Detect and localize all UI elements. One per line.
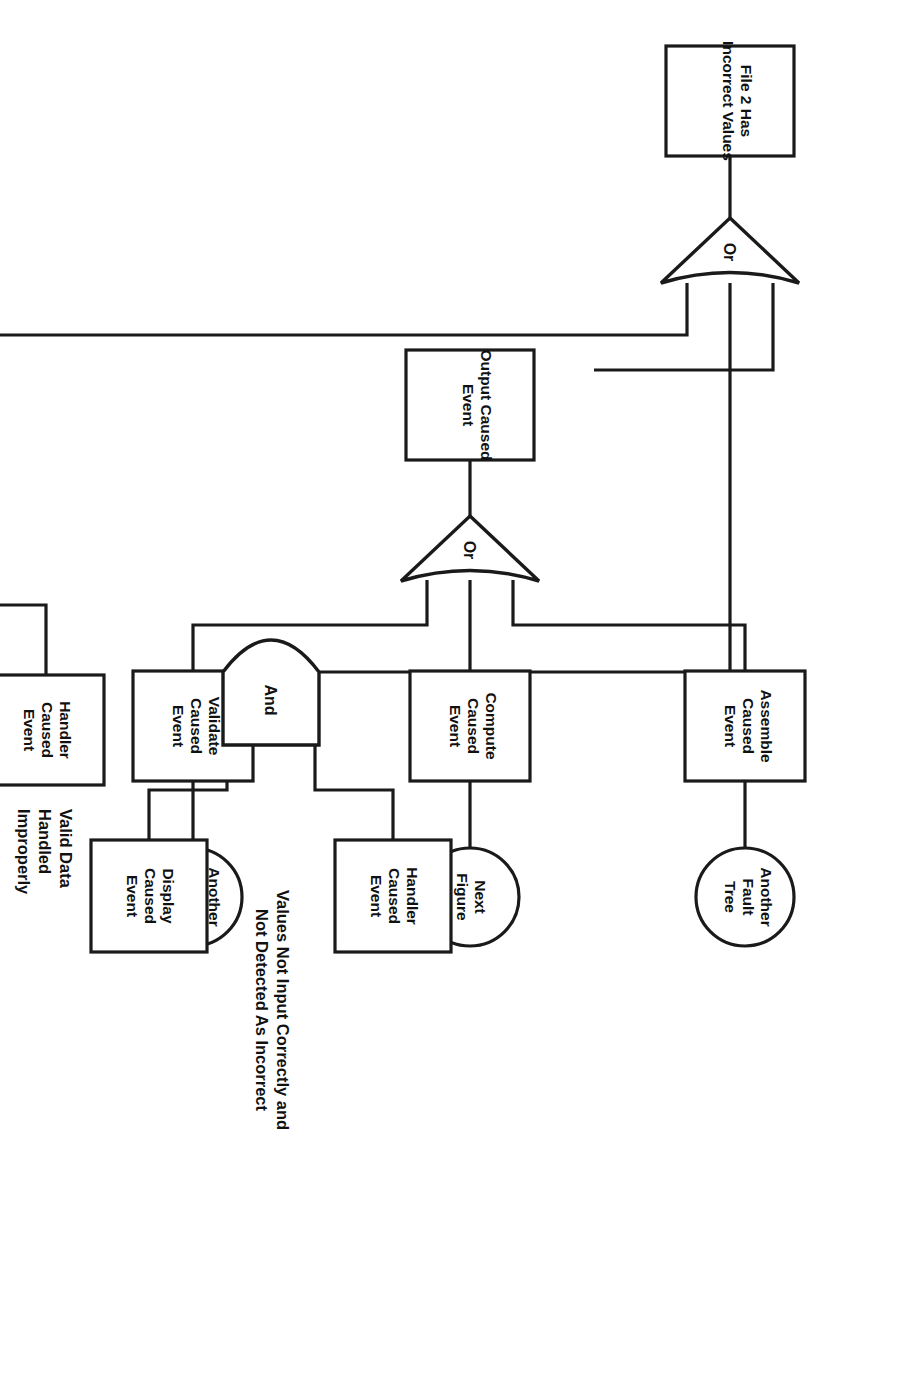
assemble-transfer-node[interactable]: Another Fault Tree [696,848,794,946]
validate-caused-line3: Event [170,705,187,747]
compute-caused-event-node[interactable]: Compute Caused Event [410,671,530,781]
handler-and-line2: Caused [386,868,403,924]
assemble-caused-line2: Caused [740,698,757,754]
handler-note-line3: Improperly [15,809,33,895]
annotation-handler-create: Valid Data Handled Improperly [15,809,75,895]
compute-transfer-line2: Figure [454,873,471,921]
gate-root-or-label: Or [721,243,738,262]
wire-output-or-to-assemble [513,580,745,671]
top-event-node[interactable]: File 2 Has Incorrect Values [666,41,794,161]
handler-note-line1: Valid Data [57,809,75,889]
wire-and-to-handler [315,745,393,840]
gate-output-or[interactable]: Or [401,516,539,581]
compute-caused-line3: Event [447,705,464,747]
output-caused-line1: Output Caused [478,349,495,460]
output-caused-event-node[interactable]: Output Caused Event [406,349,534,460]
handler-and-line1: Handler [404,867,421,925]
and-note-line1: Values Not Input Correctly and [274,890,292,1130]
compute-transfer-line1: Next [472,880,489,914]
and-note-line2: Not Detected As Incorrect [253,909,271,1112]
gate-detect-and-label: And [262,684,279,715]
handler-create-line1: Handler [57,701,74,759]
display-and-line3: Event [124,875,141,917]
rotated-canvas: File 2 Has Incorrect Values Or Output Ca… [0,0,899,1374]
display-and-line1: Display [160,868,177,924]
handler-create-line2: Caused [39,702,56,758]
wire-root-to-create-branch [0,283,687,335]
handler-caused-create-node[interactable]: Handler Caused Event [0,675,104,785]
wire-output-or-to-validate [193,580,427,671]
annotation-and-branch: Values Not Input Correctly and Not Detec… [253,890,292,1130]
assemble-transfer-line2: Fault [740,878,757,915]
handler-and-line3: Event [368,875,385,917]
handler-create-line3: Event [21,709,38,751]
display-caused-and-node[interactable]: Display Caused Event [91,840,207,952]
handler-note-line2: Handled [36,809,54,874]
top-event-line1: File 2 Has [738,65,755,137]
assemble-caused-line1: Assemble [758,689,775,763]
output-caused-line2: Event [460,384,477,426]
top-event-line2: Incorrect Values [720,41,737,161]
compute-caused-line1: Compute [483,692,500,760]
gate-root-or[interactable]: Or [661,218,799,283]
wire-root-to-output-branch [594,283,773,370]
compute-caused-line2: Caused [465,698,482,754]
validate-caused-line1: Validate [206,697,223,756]
assemble-caused-event-node[interactable]: Assemble Caused Event [685,671,805,781]
assemble-transfer-line3: Tree [722,881,739,913]
validate-caused-line2: Caused [188,698,205,754]
assemble-caused-line3: Event [722,705,739,747]
assemble-transfer-line1: Another [758,867,775,926]
wire-create-or-to-handler [0,569,46,675]
wire-root-to-and-branch [319,283,730,672]
display-and-line2: Caused [142,868,159,924]
fault-tree-figure: File 2 Has Incorrect Values Or Output Ca… [0,0,899,1374]
wire-layer [0,156,773,848]
gate-detect-and[interactable]: And [223,640,319,745]
handler-caused-and-node[interactable]: Handler Caused Event [335,840,451,952]
gate-output-or-label: Or [461,541,478,560]
